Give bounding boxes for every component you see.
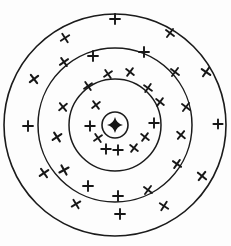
shot-mark bbox=[57, 163, 71, 177]
shot-mark-stroke bbox=[61, 35, 69, 40]
shot-mark bbox=[101, 144, 111, 154]
shot-mark bbox=[83, 181, 93, 191]
shot-mark bbox=[37, 166, 51, 180]
shot-mark bbox=[113, 145, 123, 155]
shot-mark bbox=[149, 118, 159, 128]
shot-mark bbox=[50, 130, 64, 144]
shot-mark bbox=[138, 130, 151, 143]
bullseye-core bbox=[107, 117, 123, 133]
shot-mark-stroke bbox=[167, 29, 173, 37]
shot-mark-stroke bbox=[203, 68, 209, 77]
shot-mark bbox=[69, 197, 83, 211]
shot-mark bbox=[195, 169, 210, 184]
shot-mark-stroke bbox=[104, 71, 112, 77]
shot-mark-stroke bbox=[145, 84, 151, 92]
shot-mark bbox=[27, 72, 42, 87]
shot-mark bbox=[56, 100, 70, 114]
shot-mark bbox=[91, 131, 104, 144]
shot-mark-stroke bbox=[183, 103, 189, 111]
target-figure bbox=[0, 0, 231, 246]
shot-mark bbox=[85, 121, 95, 131]
shot-mark bbox=[58, 31, 72, 45]
shot-mark bbox=[23, 121, 33, 131]
shot-mark-stroke bbox=[172, 68, 178, 76]
shot-mark-stroke bbox=[94, 135, 102, 141]
shot-mark bbox=[123, 65, 136, 78]
target-diagram-svg bbox=[0, 0, 231, 246]
shot-mark bbox=[199, 65, 213, 79]
bullseye-star-icon bbox=[107, 117, 123, 133]
shot-mark-stroke bbox=[161, 202, 166, 210]
shot-mark bbox=[89, 98, 102, 111]
shot-mark bbox=[213, 119, 222, 128]
shot-mark bbox=[157, 199, 171, 213]
shot-mark bbox=[110, 14, 120, 24]
shot-mark bbox=[115, 209, 125, 219]
shot-mark-stroke bbox=[40, 170, 49, 176]
shot-mark bbox=[127, 141, 140, 154]
shot-mark-stroke bbox=[53, 134, 62, 140]
shot-mark bbox=[113, 191, 123, 201]
shot-mark bbox=[174, 128, 188, 142]
